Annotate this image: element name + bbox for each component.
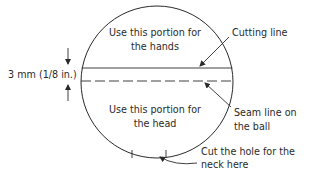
lower-region-label-line2: the head bbox=[134, 118, 177, 129]
cutting-line-callout: Cutting line bbox=[232, 27, 288, 38]
dimension-label: 3 mm (1/8 in.) bbox=[8, 69, 77, 80]
lower-region-label-line1: Use this portion for bbox=[109, 104, 201, 115]
upper-region-label-line1: Use this portion for bbox=[109, 27, 201, 38]
cutting-line-leader bbox=[200, 37, 229, 66]
seam-line-leader bbox=[205, 83, 231, 107]
seam-line-callout-line2: the ball bbox=[234, 121, 270, 132]
ball-cutting-diagram: Use this portion for the hands Use this … bbox=[0, 0, 309, 175]
upper-region-label-line2: the hands bbox=[131, 41, 179, 52]
neck-callout-line2: neck here bbox=[201, 159, 249, 170]
neck-callout-line1: Cut the hole for the bbox=[201, 146, 295, 157]
seam-line-callout-line1: Seam line on bbox=[234, 107, 297, 118]
